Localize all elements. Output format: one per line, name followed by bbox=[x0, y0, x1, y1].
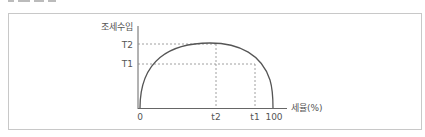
y-tick-T1: T1 bbox=[121, 59, 133, 69]
x-tick-0: 0 bbox=[137, 112, 143, 122]
x-tick-t2: t2 bbox=[211, 112, 220, 122]
laffer-curve-chart: 조세수입 T2 T1 0 t2 t1 100 세율(%) bbox=[0, 0, 425, 137]
x-tick-100: 100 bbox=[265, 112, 282, 122]
y-axis-label: 조세수입 bbox=[101, 21, 133, 32]
laffer-curve bbox=[140, 43, 273, 108]
x-tick-t1: t1 bbox=[250, 112, 259, 122]
x-axis-label: 세율(%) bbox=[291, 103, 323, 113]
y-tick-T2: T2 bbox=[121, 40, 133, 50]
